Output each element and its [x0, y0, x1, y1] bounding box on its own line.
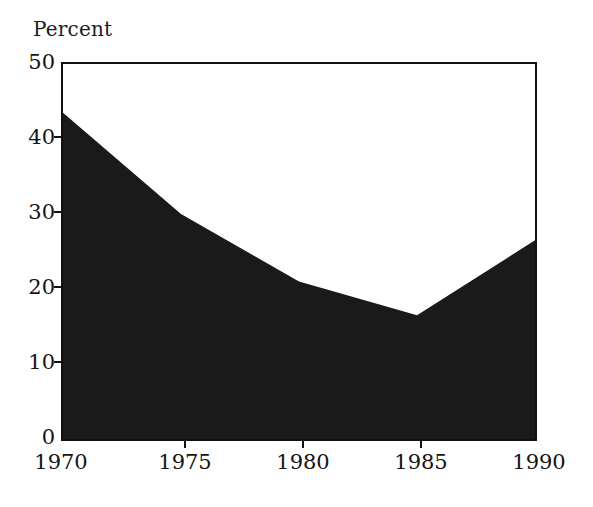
x-tick-label-1985: 1985: [376, 450, 466, 474]
y-axis-tick-labels: 50 40 30 20 10 0: [0, 0, 55, 507]
y-tick-label-50: 50: [3, 52, 55, 73]
y-tick-label-30: 30: [3, 202, 55, 223]
x-tick-mark-1985: [420, 439, 422, 448]
y-tick-label-40: 40: [3, 127, 55, 148]
y-tick-label-20: 20: [3, 277, 55, 298]
plot-area: [61, 62, 537, 441]
chart-title-cropped: [0, 0, 593, 9]
x-axis-tick-labels: 1970 1975 1980 1985 1990: [0, 450, 593, 480]
x-tick-label-1975: 1975: [140, 450, 230, 474]
x-tick-label-1980: 1980: [258, 450, 348, 474]
x-tick-mark-1980: [302, 439, 304, 448]
area-series-path: [63, 64, 535, 439]
x-tick-label-1990: 1990: [494, 450, 584, 474]
y-tick-label-0: 0: [3, 427, 55, 448]
y-tick-mark-20: [54, 286, 61, 288]
plot-inner: [63, 64, 535, 439]
x-tick-mark-1975: [184, 439, 186, 448]
y-tick-label-10: 10: [3, 352, 55, 373]
y-tick-mark-10: [54, 361, 61, 363]
y-tick-mark-40: [54, 136, 61, 138]
x-tick-label-1970: 1970: [16, 450, 106, 474]
y-tick-mark-30: [54, 211, 61, 213]
